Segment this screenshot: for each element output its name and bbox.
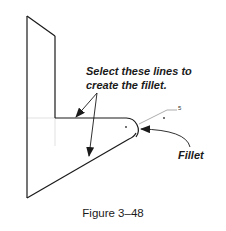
selected-slanted-line [27,139,129,198]
fillet-callout-arrow [141,129,190,147]
top-slant-edge [27,16,55,36]
construction-lines [27,118,55,146]
callout-line-2: create the fillet. [86,78,192,92]
dimension-dot [163,117,165,119]
figure-caption: Figure 3–48 [0,207,226,219]
dimension-leader [139,110,177,124]
part-outline [27,16,138,198]
dimension-label: 5 [178,105,181,111]
fillet-center-dot [125,126,127,128]
fillet-diagram: 5 Select these lines to create the fille… [0,0,226,231]
diagram-canvas [0,0,226,231]
select-lines-callout: Select these lines to create the fillet. [86,64,192,92]
callout-line-1: Select these lines to [86,64,192,78]
select-callout-arrows [76,93,97,156]
fillet-arc [126,118,138,137]
fillet-tangent [129,133,136,139]
fillet-callout: Fillet [178,148,204,162]
